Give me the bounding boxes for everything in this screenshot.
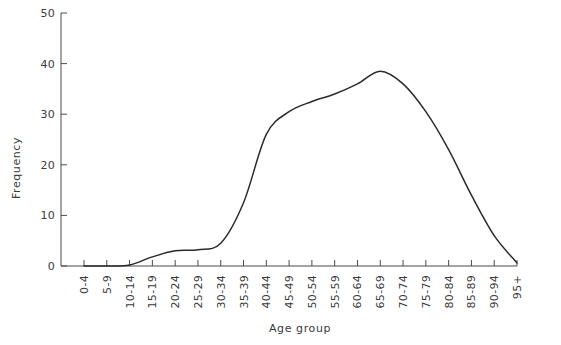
x-tick-label: 95+ [511,275,524,299]
x-tick-label: 35-39 [238,275,251,308]
y-axis: 01020304050 [40,7,67,273]
y-tick-label: 50 [40,7,55,20]
x-tick-label: 85-89 [465,275,478,308]
x-tick-label: 75-79 [420,275,433,308]
x-tick-label: 65-69 [374,275,387,308]
x-tick-label: 60-64 [351,275,364,308]
x-tick-label: 15-19 [146,275,159,308]
x-tick-label: 30-34 [215,275,228,308]
chart-canvas: 01020304050 0-45-910-1415-1920-2425-2930… [0,0,561,345]
x-tick-label: 45-49 [283,275,296,308]
x-tick-label: 70-74 [397,275,410,308]
x-tick-label: 25-29 [192,275,205,308]
y-axis-title: Frequency [10,137,23,199]
x-tick-label: 10-14 [124,275,137,308]
x-tick-label: 80-84 [443,275,456,308]
y-tick-label: 20 [40,159,55,172]
x-tick-label: 50-54 [306,275,319,308]
x-tick-label: 55-59 [329,275,342,308]
y-tick-label: 10 [40,209,55,222]
x-tick-label: 5-9 [101,275,114,294]
frequency-curve [84,71,517,266]
figure-caption [0,336,561,345]
x-axis-title: Age group [269,322,331,335]
x-tick-label: 40-44 [260,275,273,308]
x-tick-label: 20-24 [169,275,182,308]
x-tick-label: 0-4 [78,275,91,294]
x-axis: 0-45-910-1415-1920-2425-2930-3435-3940-4… [61,260,524,308]
x-tick-label: 90-94 [488,275,501,308]
y-tick-label: 0 [48,260,55,273]
y-tick-label: 30 [40,108,55,121]
y-tick-label: 40 [40,58,55,71]
frequency-polygon-chart: 01020304050 0-45-910-1415-1920-2425-2930… [0,0,561,345]
